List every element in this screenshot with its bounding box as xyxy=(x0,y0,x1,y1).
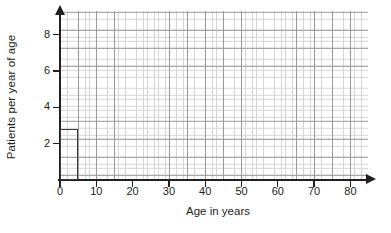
x-axis-line xyxy=(58,179,369,181)
y-axis-tick xyxy=(53,143,59,144)
x-axis-tick-label: 40 xyxy=(190,185,220,197)
y-axis-tick-label: 2 xyxy=(36,137,50,149)
y-axis-tick xyxy=(53,70,59,71)
plot-area-gridlines xyxy=(60,11,368,180)
x-axis-arrow-icon xyxy=(366,174,376,184)
y-axis-tick-label: 8 xyxy=(36,28,50,40)
y-axis-tick xyxy=(53,107,59,108)
y-axis-tick-label: 6 xyxy=(36,64,50,76)
x-axis-tick-label: 10 xyxy=(81,185,111,197)
y-axis-tick xyxy=(53,34,59,35)
histogram-chart: 01020304050607080 2468 Patients per year… xyxy=(0,0,391,233)
y-axis-title: Patients per year of age xyxy=(0,4,22,190)
x-axis-title: Age in years xyxy=(150,205,286,217)
x-axis-tick-label: 50 xyxy=(227,185,257,197)
x-axis-tick-label: 0 xyxy=(45,185,75,197)
x-axis-tick-label: 30 xyxy=(154,185,184,197)
x-axis-tick-label: 20 xyxy=(118,185,148,197)
y-axis-tick-label: 4 xyxy=(36,100,50,112)
x-axis-tick-label: 60 xyxy=(263,185,293,197)
x-axis-tick-label: 70 xyxy=(299,185,329,197)
x-axis-tick-label: 80 xyxy=(335,185,365,197)
y-axis-arrow-icon xyxy=(55,5,65,15)
histogram-bar xyxy=(60,129,78,180)
